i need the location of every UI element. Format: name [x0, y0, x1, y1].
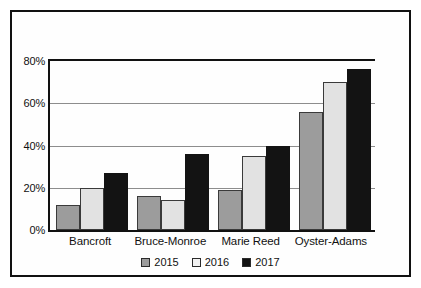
chart-frame: 80% 60% 40% 20% 0% BancroftBruce-MonroeM…: [10, 10, 411, 277]
bar-2016-marie-reed[interactable]: [242, 156, 266, 230]
x-axis-label: Bancroft: [50, 235, 130, 247]
bar-chart: 80% 60% 40% 20% 0% BancroftBruce-MonroeM…: [12, 12, 409, 275]
legend-label: 2017: [255, 256, 279, 268]
bar-2015-oyster-adams[interactable]: [299, 112, 323, 230]
bar-2015-bancroft[interactable]: [56, 205, 80, 230]
x-axis-label: Bruce-Monroe: [130, 235, 210, 247]
legend-swatch-icon: [141, 258, 150, 267]
bar-2015-marie-reed[interactable]: [218, 190, 242, 230]
bar-2017-bruce-monroe[interactable]: [185, 154, 209, 230]
bar-2017-oyster-adams[interactable]: [347, 69, 371, 230]
plot-area: 80% 60% 40% 20% 0%: [48, 49, 375, 232]
bar-group-oyster-adams: [294, 61, 375, 230]
legend-label: 2015: [154, 256, 178, 268]
legend-item-2015[interactable]: 2015: [141, 256, 178, 268]
legend-item-2016[interactable]: 2016: [192, 256, 229, 268]
bar-2016-oyster-adams[interactable]: [323, 82, 347, 230]
x-axis-label: Oyster-Adams: [291, 235, 371, 247]
bar-group-bancroft: [52, 61, 133, 230]
chart-legend: 201520162017: [12, 256, 409, 268]
bar-group-marie-reed: [214, 61, 295, 230]
legend-swatch-icon: [192, 258, 201, 267]
y-tick-label-0: 0%: [30, 224, 46, 236]
plot-inner: 80% 60% 40% 20% 0%: [48, 59, 375, 232]
bar-2017-bancroft[interactable]: [104, 173, 128, 230]
legend-item-2017[interactable]: 2017: [242, 256, 279, 268]
bar-groups: [52, 61, 375, 230]
x-axis-label: Marie Reed: [211, 235, 291, 247]
y-tick-label-80: 80%: [24, 55, 45, 67]
bar-group-bruce-monroe: [133, 61, 214, 230]
y-tick-label-20: 20%: [24, 182, 45, 194]
y-tick-label-40: 40%: [24, 140, 45, 152]
bar-2016-bruce-monroe[interactable]: [161, 200, 185, 230]
bar-2016-bancroft[interactable]: [80, 188, 104, 230]
bar-2015-bruce-monroe[interactable]: [137, 196, 161, 230]
y-tick-label-60: 60%: [24, 97, 45, 109]
legend-swatch-icon: [242, 258, 251, 267]
x-axis-labels: BancroftBruce-MonroeMarie ReedOyster-Ada…: [50, 235, 371, 247]
bar-2017-marie-reed[interactable]: [266, 146, 290, 231]
legend-label: 2016: [205, 256, 229, 268]
